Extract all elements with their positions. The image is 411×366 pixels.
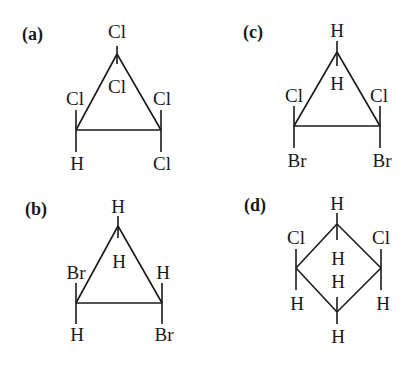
atom-a-top-up: Cl [108,21,126,42]
atom-c-right-down: Br [373,150,393,171]
stereoisomer-figure: (a) Cl Cl Cl H Cl Cl (b) [0,0,411,366]
atom-d-left-down: H [290,293,304,314]
atom-b-right-up: H [156,262,170,283]
atom-a-top-down: Cl [108,76,126,97]
atom-c-top-up: H [330,20,344,41]
atom-d-left-up: Cl [287,227,305,248]
atom-d-right-down: H [376,293,390,314]
atom-b-top-down: H [112,251,126,272]
atom-c-left-down: Br [288,150,308,171]
ring-a [76,46,161,152]
atom-b-left-down: H [70,324,84,345]
ring-c [294,41,380,148]
structure-d: (d) H H H H Cl H Cl H [244,193,390,347]
atom-c-right-up: Cl [370,85,388,106]
atom-b-right-down: Br [155,324,175,345]
structure-d-label: (d) [244,195,266,216]
atom-d-top-up: H [330,193,344,214]
atom-a-left-up: Cl [66,88,84,109]
atom-d-right-up: Cl [372,227,390,248]
atom-b-top-up: H [111,196,125,217]
atom-a-right-down: Cl [153,153,171,174]
structure-b-label: (b) [25,199,47,220]
structure-b: (b) H H Br H H Br [25,196,174,345]
atom-d-top-down: H [331,248,345,269]
structure-c-label: (c) [243,22,263,43]
atom-d-bottom-down: H [331,326,345,347]
atom-a-left-down: H [70,153,84,174]
atom-c-top-down: H [330,73,344,94]
atom-b-left-up: Br [67,262,87,283]
atom-a-right-up: Cl [153,88,171,109]
atom-d-bottom-up: H [331,271,345,292]
structure-c: (c) H H Cl Br Cl Br [243,20,392,171]
atom-c-left-up: Cl [285,85,303,106]
structure-a: (a) Cl Cl Cl H Cl Cl [22,21,171,174]
structure-a-label: (a) [22,24,43,45]
